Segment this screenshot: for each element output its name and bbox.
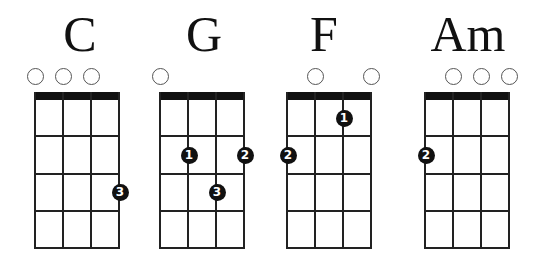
string-line [370,92,372,249]
finger-dot: 3 [112,184,129,201]
fret-line [286,173,372,175]
string-line [34,92,36,249]
fret-line [34,210,120,212]
string-line [90,92,92,249]
fret-line [424,247,510,249]
open-string-marker [83,68,100,85]
fret-line [424,173,510,175]
string-line [286,92,288,249]
string-line [508,92,510,249]
open-string-marker [55,68,72,85]
finger-dot: 2 [237,147,254,164]
nut-bar [286,92,372,100]
open-string-marker [152,68,169,85]
string-line [187,92,189,249]
string-line [243,92,245,249]
open-string-marker [363,68,380,85]
fret-line [424,210,510,212]
nut-bar [424,92,510,100]
chord-title: F [264,6,384,62]
chord-title: Am [408,6,528,62]
fret-line [286,210,372,212]
string-line [480,92,482,249]
fret-line [286,247,372,249]
fret-line [286,135,372,137]
fret-line [424,135,510,137]
fret-line [34,135,120,137]
open-string-marker [501,68,518,85]
finger-dot: 3 [209,184,226,201]
chord-chart: C3G123F12Am2 [0,0,543,264]
chord-title: C [20,6,140,62]
string-line [314,92,316,249]
string-line [215,92,217,249]
fret-line [159,247,245,249]
fret-line [34,247,120,249]
open-string-marker [473,68,490,85]
fret-line [159,210,245,212]
string-line [452,92,454,249]
finger-dot: 1 [336,110,353,127]
string-line [159,92,161,249]
open-string-marker [307,68,324,85]
fret-line [34,173,120,175]
open-string-marker [27,68,44,85]
string-line [424,92,426,249]
open-string-marker [445,68,462,85]
nut-bar [34,92,120,100]
finger-dot: 1 [181,147,198,164]
chord-title: G [144,6,264,62]
string-line [62,92,64,249]
finger-dot: 2 [280,147,297,164]
fret-line [159,173,245,175]
string-line [118,92,120,249]
nut-bar [159,92,245,100]
fret-line [159,135,245,137]
finger-dot: 2 [418,147,435,164]
